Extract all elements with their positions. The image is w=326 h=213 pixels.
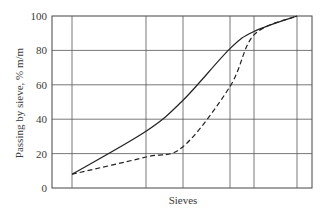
y-tick-label: 20	[36, 148, 48, 160]
grading-curve-chart: 020406080100 Sieves Passing by sieve, % …	[0, 0, 326, 213]
vertical-gridlines	[72, 16, 297, 188]
x-axis-title: Sieves	[169, 194, 198, 206]
y-tick-label: 40	[36, 113, 48, 125]
y-tick-label: 100	[31, 10, 48, 22]
y-axis-title: Passing by sieve, % m/m	[13, 47, 25, 158]
y-tick-label: 0	[42, 182, 48, 194]
y-tick-label: 60	[36, 79, 48, 91]
solid-grading-curve	[72, 16, 297, 174]
y-tick-label: 80	[36, 44, 48, 56]
dashed-grading-curve	[72, 16, 297, 174]
y-axis-tick-labels: 020406080100	[31, 10, 48, 194]
